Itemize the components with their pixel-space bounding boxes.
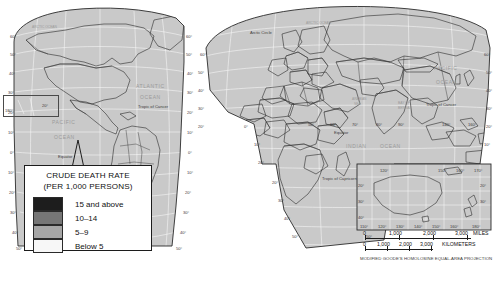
legend-label-15-and-above: 15 and above [75, 200, 124, 209]
legend-title-line2: (PER 1,000 PERSONS) [25, 182, 151, 193]
scale-km-0: 0 [363, 241, 366, 247]
svg-text:30°: 30° [486, 106, 493, 111]
svg-text:130°: 130° [396, 224, 405, 229]
pacific-ocean-label-east2: OCEAN [436, 79, 457, 85]
svg-text:10°: 10° [187, 130, 194, 135]
svg-text:20°: 20° [480, 183, 487, 188]
legend-swatch-5-9 [33, 225, 63, 239]
svg-text:10°: 10° [8, 170, 15, 175]
legend-rows: 15 and above 10–14 5–9 Below 5 [33, 197, 151, 253]
svg-text:20°: 20° [42, 103, 49, 108]
svg-text:70°: 70° [352, 122, 359, 127]
longitude-180-callout-box: 180° 20° [3, 95, 59, 117]
svg-text:0°: 0° [244, 124, 248, 129]
map-legend: CRUDE DEATH RATE (PER 1,000 PERSONS) 15 … [24, 165, 152, 251]
svg-text:50°: 50° [16, 246, 23, 251]
scale-km-1000: 1,000 [377, 241, 390, 247]
legend-row: 15 and above [33, 197, 151, 211]
svg-text:10°: 10° [187, 170, 194, 175]
svg-text:20°: 20° [486, 124, 493, 129]
svg-text:30°: 30° [183, 210, 190, 215]
bay-of-bengal-label2: BENGAL [398, 106, 412, 110]
arctic-ocean-label-west: ARCTIC OCEAN [32, 25, 58, 29]
scale-miles-unit: MILES [473, 230, 489, 236]
svg-text:30°: 30° [10, 210, 17, 215]
svg-text:60°: 60° [200, 52, 207, 57]
svg-text:90°: 90° [398, 122, 405, 127]
svg-text:0°: 0° [188, 150, 192, 155]
svg-text:160°: 160° [456, 168, 465, 173]
svg-text:160°: 160° [450, 224, 459, 229]
svg-text:20°: 20° [187, 110, 194, 115]
legend-row: Below 5 [33, 239, 151, 253]
lon-180-label: 180° [5, 108, 14, 113]
tropic-of-cancer-west: Tropic of Cancer [138, 104, 169, 109]
svg-text:40°: 40° [187, 71, 194, 76]
svg-text:50°: 50° [308, 122, 315, 127]
svg-text:140°: 140° [414, 224, 423, 229]
svg-text:180°: 180° [472, 224, 481, 229]
indian-ocean-label: INDIAN [346, 143, 367, 149]
svg-text:40°: 40° [358, 215, 365, 220]
scale-miles-3000: 3,000 [455, 230, 468, 236]
svg-text:170°: 170° [474, 168, 483, 173]
svg-text:60°: 60° [10, 34, 17, 39]
legend-row: 10–14 [33, 211, 151, 225]
arabian-sea-label2: SEA [354, 102, 361, 106]
pacific-ocean-label-east: PACIFIC [434, 65, 458, 71]
legend-swatch-10-14 [33, 211, 63, 225]
svg-text:120°: 120° [378, 224, 387, 229]
legend-swatch-below-5 [33, 239, 63, 253]
svg-text:50°: 50° [486, 70, 493, 75]
svg-text:10°: 10° [484, 142, 491, 147]
scale-km-unit: KILOMETERS [442, 241, 475, 247]
bay-of-bengal-label: BAY OF [398, 101, 410, 105]
svg-text:120°: 120° [380, 168, 389, 173]
svg-text:60°: 60° [186, 34, 193, 39]
scale-bars: 0 1,000 2,000 3,000 MILES 0 1,000 2,000 … [360, 232, 492, 254]
legend-swatch-15-and-above [33, 197, 63, 211]
svg-text:20°: 20° [198, 124, 205, 129]
svg-text:150°: 150° [432, 224, 441, 229]
svg-text:20°: 20° [258, 160, 265, 165]
svg-text:50°: 50° [198, 70, 205, 75]
svg-text:20°: 20° [185, 190, 192, 195]
scale-km-3000: 3,000 [420, 241, 433, 247]
tropic-of-cancer-east: Tropic of Cancer [426, 102, 457, 107]
pacific-ocean-label-west: PACIFIC [52, 119, 76, 125]
svg-text:40°: 40° [284, 216, 291, 221]
indian-ocean-label2: OCEAN [380, 143, 401, 149]
svg-text:50°: 50° [176, 246, 183, 251]
equator-label-east: Equator [334, 130, 349, 135]
svg-text:30°: 30° [187, 90, 194, 95]
world-map-figure: 60° 50° 40° 30° 20° 10° 0° 10° 20° 30° 4… [0, 0, 496, 281]
legend-title-line1: CRUDE DEATH RATE [25, 171, 151, 182]
svg-text:60°: 60° [330, 122, 337, 127]
legend-label-10-14: 10–14 [75, 214, 97, 223]
australia-inset: 120° 150° 160° 170° 110° 120° 130° 140° … [356, 163, 492, 231]
svg-text:50°: 50° [10, 52, 17, 57]
svg-text:140°: 140° [442, 122, 451, 127]
legend-label-5-9: 5–9 [75, 228, 88, 237]
svg-text:20°: 20° [272, 180, 279, 185]
scale-miles-1000: 1,000 [389, 230, 402, 236]
svg-text:40°: 40° [9, 71, 16, 76]
svg-text:20°: 20° [358, 183, 365, 188]
arctic-ocean-label-east: ARCTIC OCEAN [306, 21, 332, 25]
arctic-circle-label: Arctic Circle [250, 30, 273, 35]
scale-miles-0: 0 [363, 230, 366, 236]
svg-text:110°: 110° [360, 224, 369, 229]
scale-km-2000: 2,000 [399, 241, 412, 247]
svg-text:50°: 50° [292, 234, 299, 239]
svg-text:10°: 10° [254, 142, 261, 147]
svg-text:40°: 40° [198, 88, 205, 93]
scale-kilometers: 0 1,000 2,000 3,000 KILOMETERS [360, 243, 492, 254]
svg-text:40°: 40° [486, 88, 493, 93]
legend-row: 5–9 [33, 225, 151, 239]
svg-text:40°: 40° [12, 230, 19, 235]
svg-text:20°: 20° [9, 190, 16, 195]
svg-text:50°: 50° [186, 52, 193, 57]
svg-text:30°: 30° [278, 198, 285, 203]
atlantic-ocean-label2: OCEAN [140, 94, 161, 100]
arabian-sea-label: ARABIAN [352, 97, 367, 101]
